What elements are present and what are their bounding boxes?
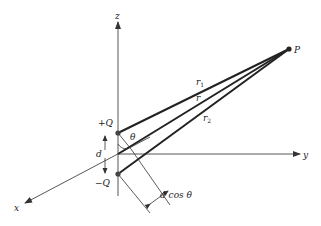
z-axis-label: z	[114, 11, 120, 21]
r2-label: r2	[203, 113, 211, 124]
r-label: r	[196, 93, 201, 103]
dipole-diagram: z y x d cos θ θ d +Q −Q P r1	[0, 0, 321, 226]
projection-construction: d cos θ	[118, 133, 193, 213]
r1-label: r1	[196, 77, 204, 88]
positive-charge	[115, 130, 120, 135]
field-point: P	[286, 45, 301, 55]
theta-label: θ	[130, 132, 136, 142]
r-line	[118, 49, 289, 154]
d-label: d	[96, 149, 102, 159]
negative-charge	[115, 171, 120, 176]
d-cos-theta-label: d cos θ	[160, 190, 193, 200]
angle-marker: θ	[118, 132, 136, 149]
y-axis-label: y	[302, 150, 309, 160]
point-p-label: P	[293, 45, 301, 55]
r2-subscript: 2	[207, 117, 211, 124]
r1-subscript: 1	[200, 81, 204, 88]
r2-line	[118, 49, 289, 174]
negative-charge-label: −Q	[95, 178, 111, 188]
distance-lines	[118, 49, 289, 174]
extension-line	[118, 174, 150, 213]
positive-charge-label: +Q	[98, 118, 114, 128]
point-p	[286, 46, 291, 51]
separation-marker: d	[96, 136, 105, 173]
x-axis-label: x	[14, 203, 19, 213]
